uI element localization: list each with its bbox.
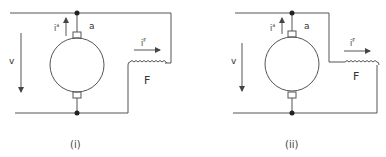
armature-bottom-brush [288,92,296,98]
bottom-junction-dot [75,111,80,116]
armature-terminal-label: a [304,21,310,31]
field-winding-label: F [144,74,150,87]
armature-top-brush [73,32,81,38]
voltage-label: v [231,56,237,66]
armature-icon [265,37,319,91]
armature-terminal-label: a [89,21,95,31]
armature-current-label: ia [54,22,59,33]
voltage-label: v [9,56,15,66]
field-left-wire [128,62,130,113]
bottom-junction-dot [290,111,295,116]
top-junction-dot [75,11,80,16]
field-coil [130,61,167,64]
field-current-label: iF [350,37,355,48]
circuit-figure: v ia a iF F (i) v ia a iF F (ii) [0,0,386,157]
field-winding-label: F [353,70,359,83]
field-coil [345,61,379,66]
armature-current-label: ia [270,22,275,33]
armature-bottom-brush [73,92,81,98]
armature-top-brush [288,31,296,37]
field-current-label: iF [141,37,146,48]
armature-icon [50,38,104,92]
caption-i: (i) [70,139,81,150]
caption-ii: (ii) [285,139,298,150]
top-junction-dot [290,11,295,16]
